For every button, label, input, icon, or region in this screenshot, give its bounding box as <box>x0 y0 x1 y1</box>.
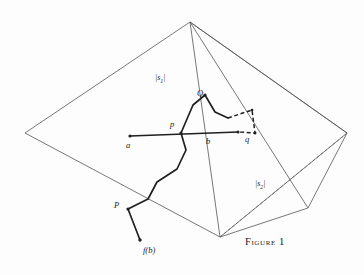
vertex-fb-dot <box>138 238 141 241</box>
spoke-apex-to-bottom <box>190 22 220 237</box>
label-sector-s2: |s2| <box>255 180 266 190</box>
vertex-Q-dot <box>203 93 206 96</box>
spoke-apex-to-right-lower <box>190 22 308 208</box>
spoke-apex-to-right <box>190 22 347 133</box>
vertex-b-dot <box>237 131 240 134</box>
label-sector-s1: |s1| <box>155 74 166 84</box>
vertex-q-dot <box>254 132 257 135</box>
segment-a-b <box>130 132 238 136</box>
dashed-corner-dot <box>251 109 254 112</box>
vertex-a-dot <box>128 134 131 137</box>
thick-path-lower <box>128 133 186 240</box>
label-point-Q-upper: Q <box>197 89 203 98</box>
label-point-b: b <box>206 137 210 146</box>
vertex-P-dot <box>126 207 129 210</box>
figure-canvas: |s1| |s2| a b p q P Q f(b) Figure 1 <box>0 0 364 275</box>
label-point-a: a <box>126 141 130 150</box>
label-point-q-lower: q <box>245 135 249 144</box>
dashed-loop-path <box>228 110 255 133</box>
outer-quadrilateral <box>25 22 347 237</box>
label-point-fb: f(b) <box>143 246 155 255</box>
figure-caption: Figure 1 <box>245 236 285 247</box>
label-point-p-lower: p <box>170 120 174 129</box>
figure-drawing <box>0 0 364 275</box>
label-point-P-upper: P <box>114 201 119 210</box>
